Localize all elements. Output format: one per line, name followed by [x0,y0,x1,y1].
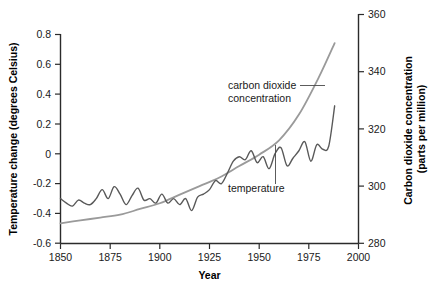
right-tick-label-340: 340 [368,65,386,77]
right-tick-label-360: 360 [368,8,386,20]
left-tick-label-0: 0 [45,148,51,160]
right-tick-label-320: 320 [368,123,386,135]
chart-figure: 0.8 0.6 0.4 0.2 0 -0.2 -0.4 -0.6 Tempera… [0,0,439,287]
x-tick-label-1875: 1875 [99,251,123,263]
x-tick-label-1925: 1925 [198,251,222,263]
annotation-co2-line2: concentration [228,92,291,104]
left-tick-label-neg0.4: -0.4 [33,207,51,219]
annotation-temperature-label: temperature [228,182,285,194]
x-tick-label-2000: 2000 [347,251,371,263]
x-tick-label-1950: 1950 [248,251,272,263]
left-tick-label-0.6: 0.6 [36,58,51,70]
climate-line-chart: 0.8 0.6 0.4 0.2 0 -0.2 -0.4 -0.6 Tempera… [0,0,439,287]
right-tick-label-300: 300 [368,180,386,192]
x-axis-title: Year [198,269,220,281]
right-axis-title-line2: (parts per million) [415,85,427,174]
x-tick-label-1975: 1975 [297,251,321,263]
x-tick-label-1900: 1900 [148,251,172,263]
left-tick-label-0.2: 0.2 [36,118,51,130]
left-axis-title: Temperature change (degrees Celsius) [7,43,19,236]
left-tick-label-neg0.6: -0.6 [33,237,51,249]
left-tick-label-neg0.2: -0.2 [33,177,51,189]
annotation-co2-line1: carbon dioxide [228,79,296,91]
left-tick-label-0.8: 0.8 [36,28,51,40]
right-tick-label-280: 280 [368,237,386,249]
right-axis-title-line1: Carbon dioxide concentration [402,56,414,205]
left-tick-label-0.4: 0.4 [36,88,51,100]
x-tick-label-1850: 1850 [49,251,73,263]
